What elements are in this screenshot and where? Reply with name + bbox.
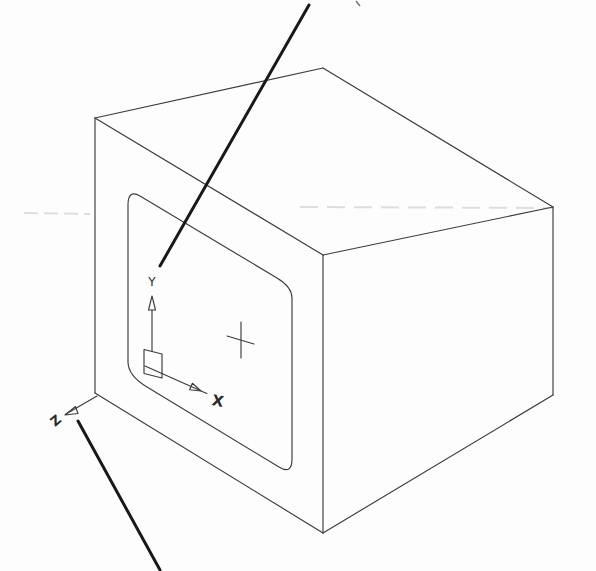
- y-axis-label: Y: [147, 275, 156, 289]
- diagram-background: [0, 0, 596, 571]
- isometric-box-diagram: Y X Z: [0, 0, 596, 571]
